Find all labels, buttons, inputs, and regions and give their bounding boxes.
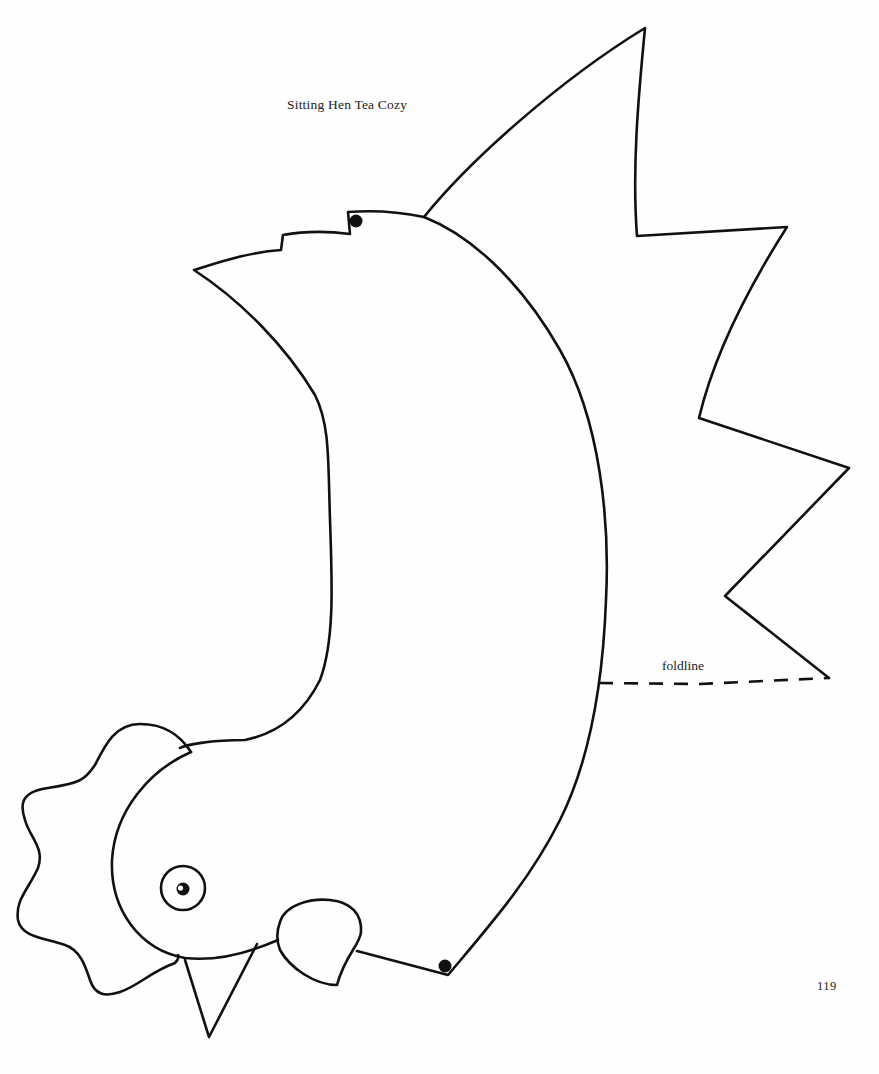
- book-page: Sitting Hen Tea Cozy foldline 119: [0, 0, 879, 1074]
- foldline-label: foldline: [662, 658, 704, 674]
- wattle-outline: [277, 900, 361, 985]
- marker-dot-bottom: [439, 960, 452, 973]
- page-number: 119: [817, 979, 837, 994]
- body-outline: [357, 217, 607, 975]
- marker-dot-top: [350, 215, 363, 228]
- head-outline: [112, 752, 278, 959]
- tail-outline: [424, 28, 849, 678]
- eye-highlight: [178, 885, 183, 890]
- foldline-dashed-line: [599, 678, 829, 684]
- hen-pattern-drawing: [0, 0, 879, 1074]
- comb-outline: [18, 724, 191, 994]
- neck-top-outline: [180, 211, 424, 748]
